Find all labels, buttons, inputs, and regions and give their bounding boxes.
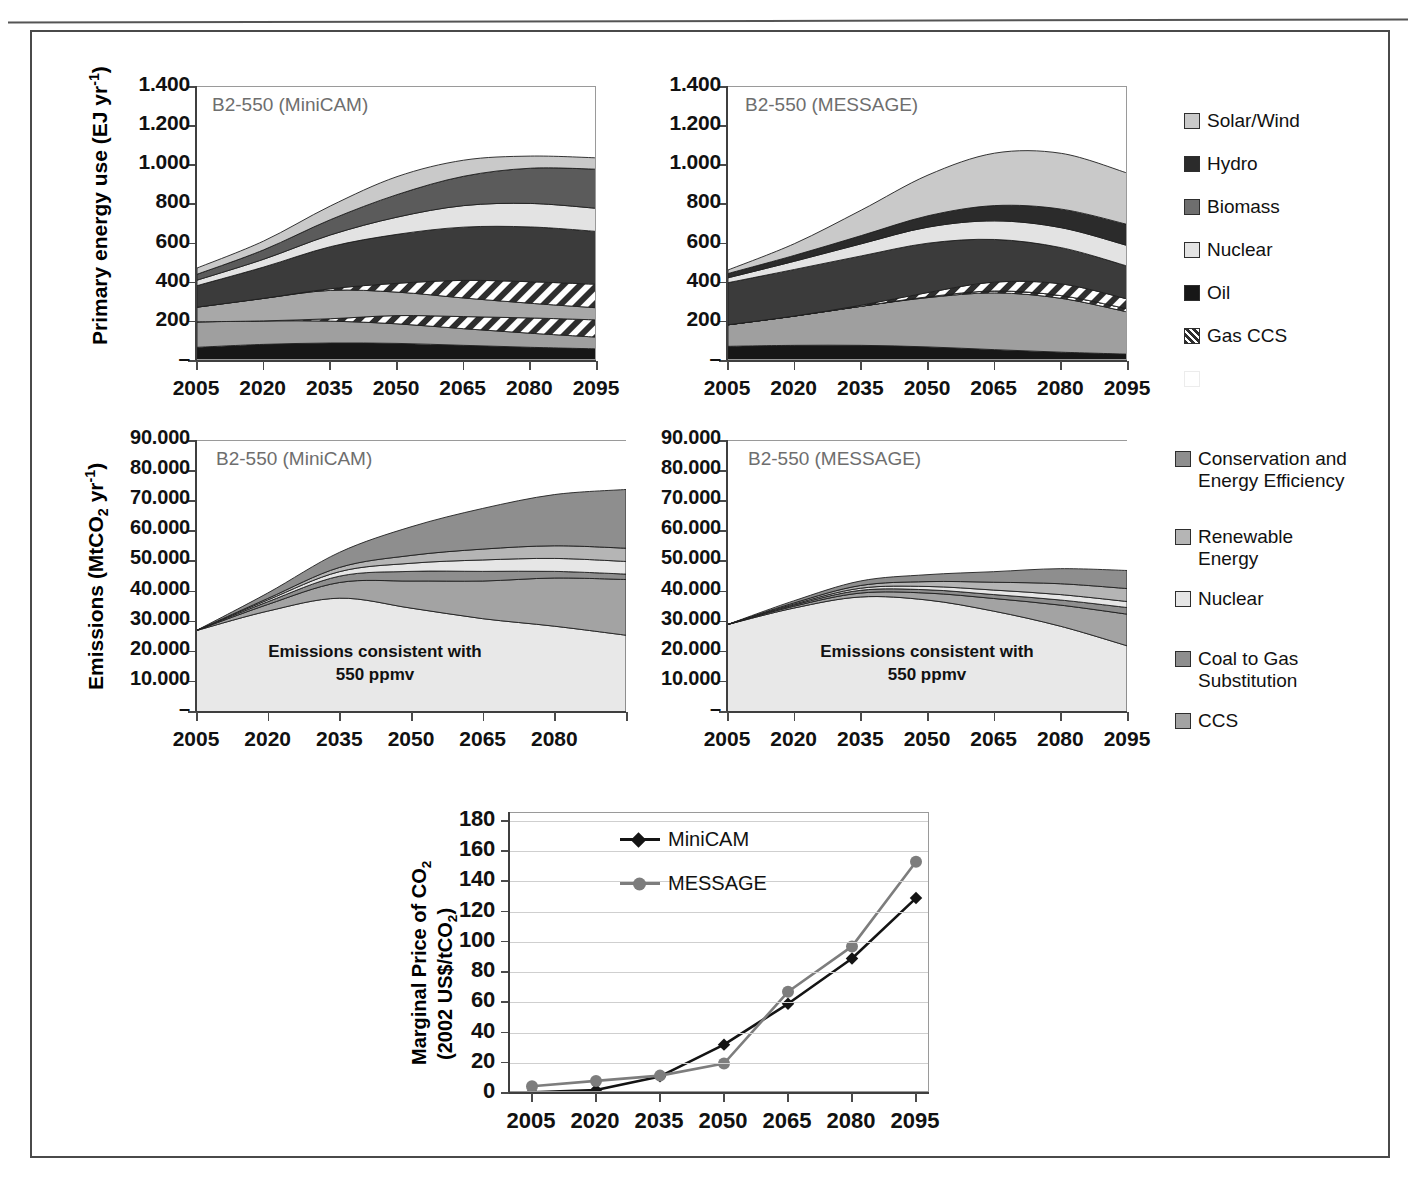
ytick-label: 1.000 <box>50 150 190 174</box>
energy-message-svg <box>728 87 1127 360</box>
price-line-message <box>532 862 916 1086</box>
xtick <box>1127 361 1129 370</box>
price-marker-message <box>590 1075 602 1087</box>
legend-label: MiniCAM <box>668 828 749 851</box>
ytick-label: 30.000 <box>581 607 721 630</box>
gridline <box>510 942 929 943</box>
gridline <box>510 1063 929 1064</box>
ytick-label: 80.000 <box>581 456 721 479</box>
legend-item-ccs: CCS <box>1175 710 1238 732</box>
xtick <box>994 712 996 721</box>
xtick <box>927 712 929 721</box>
ytick-label: 1.200 <box>581 111 721 135</box>
ytick-label: – <box>581 697 721 720</box>
ytick-label: 1.200 <box>50 111 190 135</box>
ytick-label: 1.000 <box>581 150 721 174</box>
ytick-label: 60 <box>391 987 495 1013</box>
ytick-label: 400 <box>50 268 190 292</box>
legend-label: Nuclear <box>1198 588 1263 610</box>
emissions-message-title: B2-550 (MESSAGE) <box>748 448 921 470</box>
ytick-label: 50.000 <box>50 546 190 569</box>
xtick <box>994 361 996 370</box>
xtick <box>483 712 485 721</box>
xtick-label: 2080 <box>509 727 599 751</box>
legend-label: MESSAGE <box>668 872 767 895</box>
xtick <box>268 712 270 721</box>
legend-item-biomass: Biomass <box>1184 196 1280 218</box>
legend-item-oil: Oil <box>1184 282 1230 304</box>
legend-marker <box>631 832 647 848</box>
xtick <box>915 1093 917 1102</box>
xtick <box>1060 712 1062 721</box>
xtick-label: 2095 <box>1082 376 1172 400</box>
legend-label: Solar/Wind <box>1207 110 1300 132</box>
legend-line <box>620 838 660 841</box>
legend-swatch <box>1184 156 1200 172</box>
emissions-minicam-annotation: Emissions consistent with 550 ppmv <box>230 641 520 687</box>
ytick-label: 50.000 <box>581 546 721 569</box>
legend-label: Nuclear <box>1207 239 1272 261</box>
ytick-label: 70.000 <box>50 486 190 509</box>
price-marker-message <box>782 986 794 998</box>
ytick-label: 20.000 <box>50 637 190 660</box>
ytick-label: 600 <box>581 229 721 253</box>
ytick-label: 160 <box>391 836 495 862</box>
y-axis-line <box>508 812 510 1092</box>
xtick <box>396 361 398 370</box>
xtick <box>554 712 556 721</box>
xtick-label: 2095 <box>1082 727 1172 751</box>
gridline <box>510 851 929 852</box>
ytick-label: – <box>50 346 190 370</box>
xtick <box>196 361 198 370</box>
ytick-label: 10.000 <box>581 667 721 690</box>
legend-swatch <box>1184 328 1200 344</box>
legend-swatch <box>1184 285 1200 301</box>
ytick-label: 1.400 <box>50 72 190 96</box>
ytick-label: 200 <box>50 307 190 331</box>
xtick <box>463 361 465 370</box>
legend-swatch <box>1184 199 1200 215</box>
xtick <box>1127 712 1129 721</box>
legend-item-minicam: MiniCAM <box>620 828 749 851</box>
price-marker-message <box>910 856 922 868</box>
ytick-label: 20.000 <box>581 637 721 660</box>
xtick <box>339 712 341 721</box>
legend-item-unknown <box>1184 368 1207 387</box>
legend-swatch <box>1184 242 1200 258</box>
legend-label: Oil <box>1207 282 1230 304</box>
ytick-label: 100 <box>391 927 495 953</box>
ytick-label: 800 <box>581 189 721 213</box>
gridline <box>510 912 929 913</box>
legend-item-hydro: Hydro <box>1184 153 1258 175</box>
ytick-label: 800 <box>50 189 190 213</box>
legend-marker <box>633 877 646 890</box>
ytick-label: 80 <box>391 957 495 983</box>
ytick-label: 30.000 <box>50 607 190 630</box>
ytick-label: 40.000 <box>581 577 721 600</box>
xtick <box>723 1093 725 1102</box>
y-axis-line <box>195 440 197 711</box>
ytick-label: 140 <box>391 866 495 892</box>
xtick <box>595 1093 597 1102</box>
legend-swatch <box>1175 713 1191 729</box>
xtick <box>411 712 413 721</box>
legend-label: Conservation and Energy Efficiency <box>1198 448 1347 493</box>
xtick <box>1060 361 1062 370</box>
xtick <box>531 1093 533 1102</box>
ytick-label: 1.400 <box>581 72 721 96</box>
energy-message-plot <box>727 86 1127 360</box>
gridline <box>510 1002 929 1003</box>
y-axis-line <box>195 86 197 360</box>
page-top-rule <box>8 19 1408 24</box>
gridline <box>510 1033 929 1034</box>
ytick-label: 180 <box>391 806 495 832</box>
ytick-label: 120 <box>391 897 495 923</box>
xtick <box>659 1093 661 1102</box>
ytick-label: 0 <box>391 1078 495 1104</box>
x-axis-line <box>509 1092 929 1094</box>
legend-item-coal-to-gas-substitution: Coal to Gas Substitution <box>1175 648 1298 693</box>
legend-label: Hydro <box>1207 153 1258 175</box>
legend-label: Biomass <box>1207 196 1280 218</box>
ytick-label: – <box>50 697 190 720</box>
xtick-label: 2095 <box>867 1108 963 1134</box>
